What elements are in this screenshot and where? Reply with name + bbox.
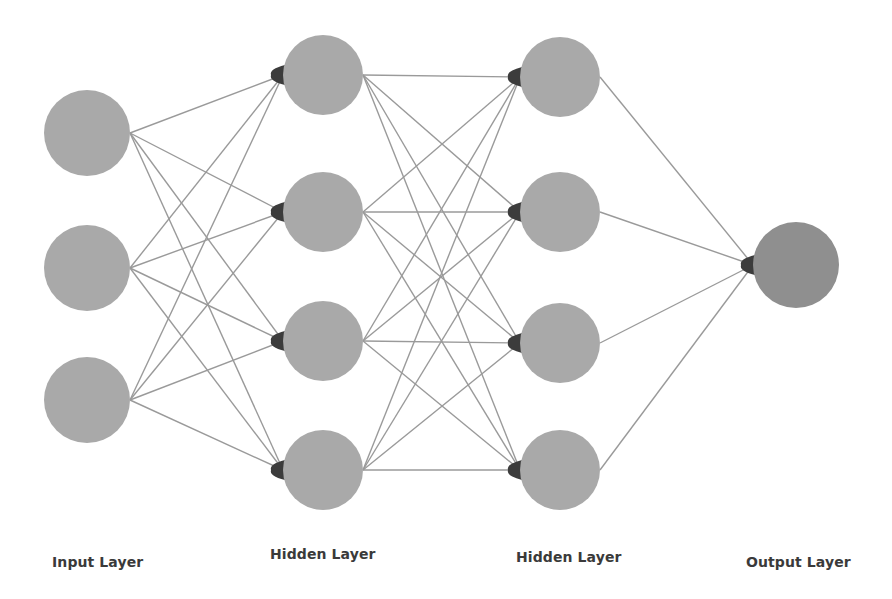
connection-line [600,212,753,265]
connection-line [130,268,283,341]
hidden2-neuron-4 [520,430,600,510]
connection-line [363,75,520,77]
arrowhead-icon [508,333,522,353]
arrowhead-icon [271,65,285,85]
connection-line [130,268,283,470]
hidden2-neuron-2 [520,172,600,252]
output-layer-label: Output Layer [746,554,851,570]
connection-line [130,133,283,470]
output-neuron-1 [753,222,839,308]
hidden-layer-2-label: Hidden Layer [516,549,622,565]
hidden2-neuron-1 [520,37,600,117]
arrowhead-icon [271,331,285,351]
hidden2-neuron-3 [520,303,600,383]
input-neuron-1 [44,90,130,176]
hidden1-neuron-3 [283,301,363,381]
neural-network-diagram [0,0,892,599]
hidden1-neuron-4 [283,430,363,510]
arrowhead-icon [271,202,285,222]
arrowhead-icon [741,255,755,275]
connection-line [130,400,283,470]
connections [130,75,753,470]
hidden-layer-1-label: Hidden Layer [270,546,376,562]
connection-line [363,77,520,341]
hidden1-neuron-1 [283,35,363,115]
arrowhead-icon [271,460,285,480]
arrowhead-icon [508,460,522,480]
arrowheads [271,65,755,480]
connection-line [600,77,753,265]
connection-line [600,265,753,343]
input-neuron-3 [44,357,130,443]
input-layer-label: Input Layer [52,554,143,570]
arrowhead-icon [508,202,522,222]
connection-line [600,265,753,470]
arrowhead-icon [508,67,522,87]
input-neuron-2 [44,225,130,311]
hidden1-neuron-2 [283,172,363,252]
